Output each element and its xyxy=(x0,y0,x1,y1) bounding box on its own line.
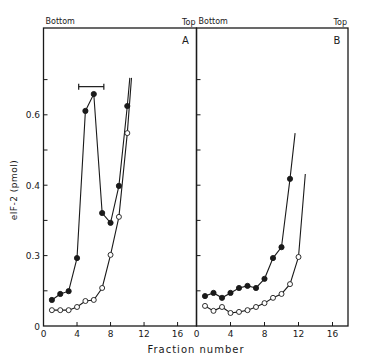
x-tick-label: 8 xyxy=(262,329,268,339)
plot-series xyxy=(49,78,305,316)
data-point-open xyxy=(237,309,242,314)
panel-B-bottom-label: Bottom xyxy=(199,17,229,26)
data-point-open xyxy=(49,308,54,313)
data-point-filled xyxy=(236,285,241,290)
chart-labels: BottomTopA0481216BottomTopB048121600.30.… xyxy=(26,17,347,339)
data-point-filled xyxy=(74,255,79,260)
data-point-open xyxy=(254,304,259,309)
data-point-filled xyxy=(116,183,121,188)
data-point-open xyxy=(228,310,233,315)
data-point-filled xyxy=(279,245,284,250)
data-point-open xyxy=(220,304,225,309)
data-point-open xyxy=(262,301,267,306)
panel-B-top-label: Top xyxy=(333,18,348,27)
data-point-open xyxy=(75,304,80,309)
data-point-open xyxy=(91,297,96,302)
data-point-filled xyxy=(287,176,292,181)
y-tick-label: 0.4 xyxy=(26,181,41,191)
data-point-open xyxy=(296,255,301,260)
data-point-open xyxy=(125,131,130,136)
data-point-open xyxy=(100,285,105,290)
data-point-open xyxy=(203,303,208,308)
y-tick-label: 0.6 xyxy=(26,110,41,120)
data-point-open xyxy=(288,282,293,287)
data-point-filled xyxy=(228,290,233,295)
x-tick-label: 0 xyxy=(194,329,200,339)
x-tick-label: 12 xyxy=(138,329,149,339)
data-point-open xyxy=(116,214,121,219)
panel-B-letter: B xyxy=(334,35,341,46)
data-point-open xyxy=(245,308,250,313)
series-line-A-open xyxy=(52,78,132,310)
x-tick-label: 16 xyxy=(172,329,184,339)
data-point-filled xyxy=(253,285,258,290)
data-point-filled xyxy=(58,291,63,296)
data-point-open xyxy=(211,308,216,313)
data-point-filled xyxy=(91,91,96,96)
x-tick-label: 8 xyxy=(108,329,114,339)
x-tick-label: 16 xyxy=(327,329,339,339)
y-tick-label: 0 xyxy=(34,322,40,332)
x-tick-label: 4 xyxy=(228,329,234,339)
data-point-open xyxy=(83,299,88,304)
series-line-A-filled xyxy=(52,78,130,300)
panel-A-top-label: Top xyxy=(181,18,196,27)
data-point-filled xyxy=(83,108,88,113)
data-point-filled xyxy=(219,295,224,300)
data-point-filled xyxy=(108,220,113,225)
panel-A-bottom-label: Bottom xyxy=(46,17,76,26)
y-tick-label: 0.3 xyxy=(26,251,40,261)
x-tick-label: 4 xyxy=(74,329,80,339)
chart-frame xyxy=(44,28,349,326)
data-point-filled xyxy=(270,255,275,260)
data-point-filled xyxy=(66,289,71,294)
x-axis-label: Fraction number xyxy=(147,344,244,355)
data-point-filled xyxy=(211,290,216,295)
data-point-filled xyxy=(49,297,54,302)
data-point-filled xyxy=(100,210,105,215)
data-point-open xyxy=(66,308,71,313)
panel-A-letter: A xyxy=(182,35,189,46)
x-tick-label: 0 xyxy=(41,329,47,339)
panel-B-frame xyxy=(197,28,349,326)
data-point-filled xyxy=(245,283,250,288)
y-axis-label: eIF-2 (pmol) xyxy=(9,160,19,221)
x-tick-label: 12 xyxy=(293,329,304,339)
data-point-filled xyxy=(202,293,207,298)
data-point-open xyxy=(108,252,113,257)
data-point-open xyxy=(58,308,63,313)
data-point-open xyxy=(271,295,276,300)
series-line-B-filled xyxy=(205,133,295,298)
series-line-B-open xyxy=(205,174,305,313)
chart: BottomTopA0481216BottomTopB048121600.30.… xyxy=(0,0,369,363)
axis-ticks xyxy=(44,80,333,326)
data-point-filled xyxy=(262,276,267,281)
data-point-open xyxy=(279,291,284,296)
